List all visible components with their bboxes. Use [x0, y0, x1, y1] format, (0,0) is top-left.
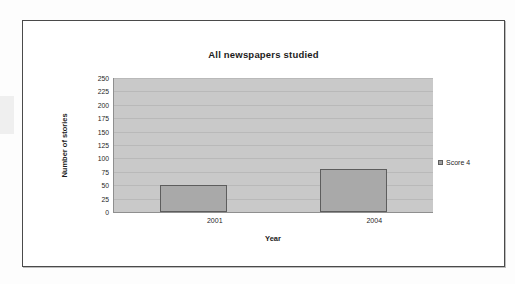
bars-layer — [114, 78, 433, 212]
legend-swatch-score-4 — [438, 160, 443, 165]
y-axis-tick-label: 250 — [65, 75, 109, 82]
y-axis-tick-label: 50 — [65, 182, 109, 189]
plot-wrapper: 2502252001751501251007550250 — [91, 78, 433, 213]
y-axis-tick-label: 75 — [65, 168, 109, 175]
y-axis-tick-label: 200 — [65, 101, 109, 108]
chart-title: All newspapers studied — [23, 49, 504, 60]
y-axis-tick-label: 175 — [65, 115, 109, 122]
y-axis-tick-label: 100 — [65, 155, 109, 162]
y-axis-tick-label: 125 — [65, 142, 109, 149]
scan-artifact — [0, 96, 14, 134]
x-axis-title: Year — [113, 234, 433, 243]
chart-legend: Score 4 — [438, 159, 470, 166]
y-axis-tick-label: 0 — [65, 209, 109, 216]
plot-area — [113, 78, 433, 213]
y-axis-tick-label: 225 — [65, 88, 109, 95]
scanned-page: All newspapers studied Number of stories… — [0, 0, 515, 284]
y-axis-tick-labels: 2502252001751501251007550250 — [65, 78, 109, 213]
chart-slide-frame: All newspapers studied Number of stories… — [22, 20, 505, 267]
legend-label-score-4: Score 4 — [446, 159, 470, 166]
y-axis-tick-label: 25 — [65, 195, 109, 202]
bar — [160, 185, 227, 212]
x-axis-tick-label: 2001 — [207, 217, 223, 224]
y-axis-tick-label: 150 — [65, 128, 109, 135]
bar — [320, 169, 387, 212]
x-axis-tick-label: 2004 — [366, 217, 382, 224]
x-axis-tick-labels: 20012004 — [113, 217, 455, 229]
